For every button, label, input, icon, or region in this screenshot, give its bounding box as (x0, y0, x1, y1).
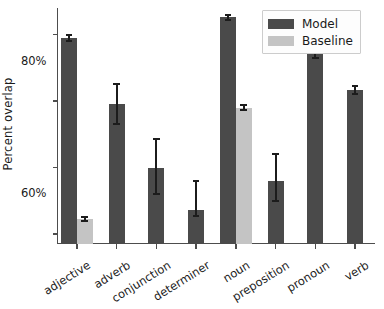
bar-model-adverb (109, 104, 125, 244)
y-axis-spine (57, 8, 58, 244)
error-bar-cap (272, 200, 279, 202)
error-bar (155, 139, 157, 194)
y-tick-label: 80% (21, 54, 47, 68)
y-axis-label-text: Percent overlap (1, 77, 15, 170)
error-bar (275, 154, 277, 201)
y-tick-label: 60% (21, 186, 47, 200)
x-tick-label: adjective (41, 258, 93, 298)
error-bar-cap (352, 85, 359, 87)
error-bar-cap (66, 40, 73, 42)
x-tick-mark (195, 244, 196, 249)
error-bar-cap (113, 83, 120, 85)
x-axis-spine (57, 243, 375, 244)
x-tick-mark (235, 244, 236, 249)
y-tick-mark: 40% (53, 167, 58, 168)
bar-chart-figure: Percent overlap 20%40%60%80% adjectivead… (0, 0, 384, 309)
error-bar-cap (193, 180, 200, 182)
error-bar-cap (225, 14, 232, 16)
error-bar-cap (113, 123, 120, 125)
legend-swatch-model-icon (268, 19, 294, 29)
legend-swatch-baseline-icon (268, 36, 294, 46)
error-bar-cap (225, 19, 232, 21)
error-bar-cap (66, 34, 73, 36)
legend-item-baseline: Baseline (268, 32, 353, 49)
bar-baseline-adjective (77, 219, 93, 244)
x-tick-mark (275, 244, 276, 249)
bar-model-verb (347, 90, 363, 244)
legend-label-baseline: Baseline (302, 34, 353, 48)
x-tick-mark (354, 244, 355, 249)
error-bar-cap (81, 216, 88, 218)
error-bar-cap (240, 109, 247, 111)
y-tick-mark: 80% (53, 34, 58, 35)
legend-label-model: Model (302, 17, 338, 31)
x-tick-mark (156, 244, 157, 249)
error-bar-cap (272, 153, 279, 155)
bar-baseline-noun (236, 108, 252, 244)
error-bar-cap (153, 193, 160, 195)
x-tick-mark (315, 244, 316, 249)
x-tick-label: pronoun (284, 258, 332, 295)
x-tick-label: verb (342, 258, 371, 284)
x-tick-mark (116, 244, 117, 249)
y-tick-mark: 60% (53, 100, 58, 101)
error-bar-cap (81, 220, 88, 222)
y-axis-label: Percent overlap (0, 0, 16, 248)
error-bar-cap (352, 93, 359, 95)
bar-model-pronoun (307, 50, 323, 244)
x-tick-mark (76, 244, 77, 249)
error-bar (195, 181, 197, 216)
y-tick-mark: 20% (53, 233, 58, 234)
bar-model-noun (220, 17, 236, 244)
bar-model-adjective (61, 38, 77, 244)
error-bar-cap (153, 138, 160, 140)
error-bar (116, 84, 118, 124)
chart-legend: Model Baseline (262, 10, 361, 54)
error-bar-cap (312, 57, 319, 59)
legend-item-model: Model (268, 15, 353, 32)
error-bar-cap (193, 215, 200, 217)
error-bar-cap (240, 104, 247, 106)
